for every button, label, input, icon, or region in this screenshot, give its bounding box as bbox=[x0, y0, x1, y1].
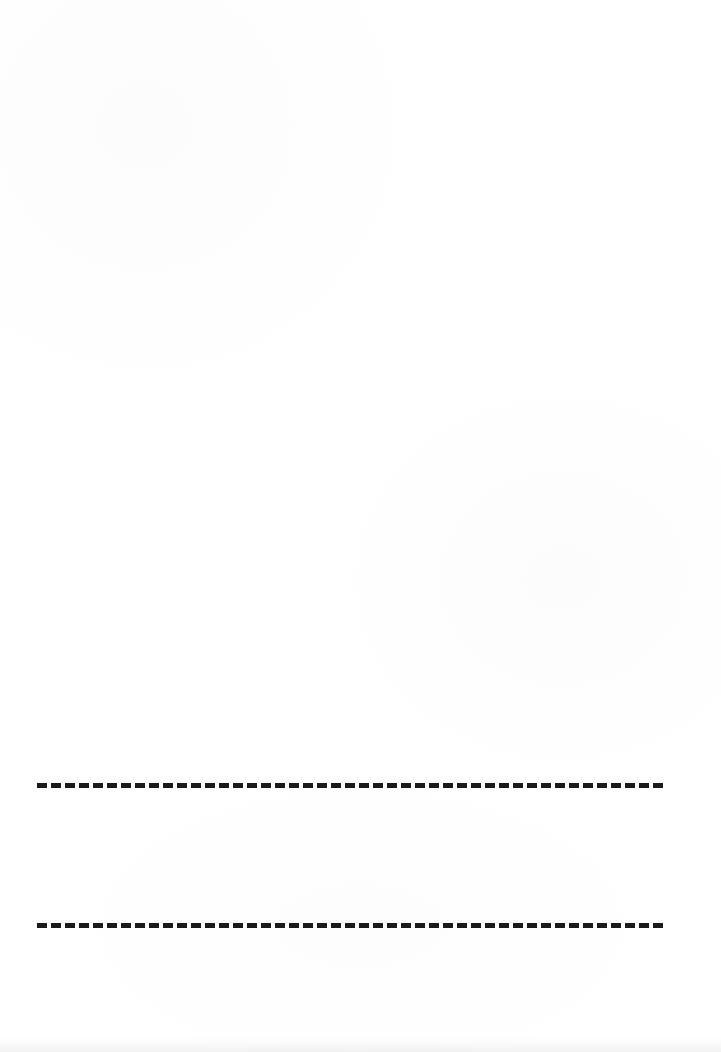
rule-dash bbox=[639, 783, 649, 788]
rule-dash bbox=[65, 783, 75, 788]
rule-dash bbox=[597, 783, 607, 788]
rule-dash bbox=[289, 783, 299, 788]
lower-dashed-rule bbox=[37, 923, 672, 928]
rule-dash bbox=[401, 783, 411, 788]
rule-dash bbox=[485, 923, 495, 928]
scan-bottom-edge-smudge bbox=[0, 1036, 721, 1052]
rule-dash bbox=[513, 783, 523, 788]
rule-dash bbox=[499, 783, 509, 788]
rule-dash bbox=[345, 783, 355, 788]
rule-dash bbox=[149, 923, 159, 928]
rule-dash bbox=[51, 923, 61, 928]
rule-dash bbox=[107, 783, 117, 788]
rule-dash bbox=[331, 783, 341, 788]
rule-dash bbox=[415, 923, 425, 928]
rule-dash bbox=[373, 783, 383, 788]
rule-dash bbox=[387, 923, 397, 928]
rule-dash bbox=[177, 783, 187, 788]
rule-dash bbox=[93, 923, 103, 928]
rule-dash bbox=[233, 783, 243, 788]
rule-dash bbox=[65, 923, 75, 928]
rule-dash bbox=[191, 783, 201, 788]
rule-dash bbox=[471, 783, 481, 788]
scanned-page bbox=[0, 0, 721, 1052]
rule-dash bbox=[611, 783, 621, 788]
rule-dash bbox=[597, 923, 607, 928]
rule-dash bbox=[569, 783, 579, 788]
rule-dash bbox=[233, 923, 243, 928]
rule-dash bbox=[639, 923, 649, 928]
rule-dash bbox=[177, 923, 187, 928]
rule-dash bbox=[219, 923, 229, 928]
rule-dash bbox=[247, 783, 257, 788]
rule-dash bbox=[331, 923, 341, 928]
rule-dash bbox=[345, 923, 355, 928]
rule-dash bbox=[401, 923, 411, 928]
rule-dash bbox=[387, 783, 397, 788]
rule-dash bbox=[219, 783, 229, 788]
rule-dash bbox=[527, 783, 537, 788]
rule-dash bbox=[415, 783, 425, 788]
rule-dash bbox=[261, 783, 271, 788]
rule-dash bbox=[373, 923, 383, 928]
rule-dash bbox=[471, 923, 481, 928]
rule-dash bbox=[205, 923, 215, 928]
rule-dash bbox=[121, 783, 131, 788]
rule-dash bbox=[37, 923, 47, 928]
rule-dash bbox=[79, 783, 89, 788]
rule-dash bbox=[163, 923, 173, 928]
rule-dash bbox=[485, 783, 495, 788]
rule-dash bbox=[653, 923, 663, 928]
rule-dash bbox=[625, 783, 635, 788]
rule-dash bbox=[121, 923, 131, 928]
rule-dash bbox=[625, 923, 635, 928]
rule-dash bbox=[247, 923, 257, 928]
rule-dash bbox=[289, 923, 299, 928]
rule-dash bbox=[555, 783, 565, 788]
rule-dash bbox=[275, 783, 285, 788]
rule-dash bbox=[499, 923, 509, 928]
rule-dash bbox=[317, 923, 327, 928]
rule-dash bbox=[79, 923, 89, 928]
rule-dash bbox=[51, 783, 61, 788]
rule-dash bbox=[303, 923, 313, 928]
rule-dash bbox=[205, 783, 215, 788]
rule-dash bbox=[443, 923, 453, 928]
rule-dash bbox=[107, 923, 117, 928]
rule-dash bbox=[135, 923, 145, 928]
rule-dash bbox=[37, 783, 47, 788]
rule-dash bbox=[569, 923, 579, 928]
upper-dashed-rule bbox=[37, 783, 672, 788]
rule-dash bbox=[359, 783, 369, 788]
rule-dash bbox=[359, 923, 369, 928]
rule-dash bbox=[149, 783, 159, 788]
rule-dash bbox=[135, 783, 145, 788]
rule-dash bbox=[429, 783, 439, 788]
rule-dash bbox=[275, 923, 285, 928]
rule-dash bbox=[611, 923, 621, 928]
rule-dash bbox=[541, 783, 551, 788]
rule-dash bbox=[163, 783, 173, 788]
rule-dash bbox=[653, 783, 663, 788]
rule-dash bbox=[261, 923, 271, 928]
rule-dash bbox=[317, 783, 327, 788]
rule-dash bbox=[93, 783, 103, 788]
rule-dash bbox=[443, 783, 453, 788]
paper-grain-texture bbox=[0, 0, 721, 1052]
rule-dash bbox=[303, 783, 313, 788]
rule-dash bbox=[583, 923, 593, 928]
rule-dash bbox=[527, 923, 537, 928]
rule-dash bbox=[191, 923, 201, 928]
rule-dash bbox=[555, 923, 565, 928]
rule-dash bbox=[457, 923, 467, 928]
rule-dash bbox=[513, 923, 523, 928]
rule-dash bbox=[583, 783, 593, 788]
rule-dash bbox=[429, 923, 439, 928]
rule-dash bbox=[457, 783, 467, 788]
rule-dash bbox=[541, 923, 551, 928]
